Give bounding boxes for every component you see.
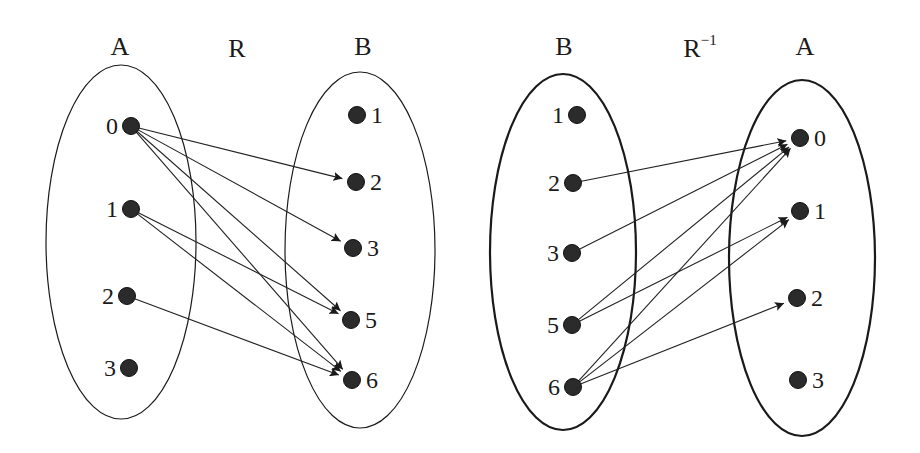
- edge-6-to-2: [579, 303, 784, 385]
- node-label: 2: [548, 170, 560, 196]
- edge-1-to-6: [136, 213, 341, 372]
- node-a-3: 3: [790, 367, 825, 393]
- node-dot: [345, 240, 362, 257]
- edge-0-to-5: [136, 130, 341, 311]
- set-b-title: B: [555, 32, 572, 61]
- node-label: 3: [812, 367, 824, 393]
- node-label: 2: [102, 283, 114, 309]
- node-label: 5: [365, 307, 377, 333]
- relation-r-inverse-base: R: [683, 34, 701, 63]
- node-dot: [792, 130, 809, 147]
- node-b-6: 6: [548, 374, 582, 400]
- node-label: 1: [552, 102, 564, 128]
- node-b-3: 3: [345, 235, 380, 261]
- relation-diagrams: A R B 012312356 B R−1 A 123560123: [0, 0, 920, 453]
- edge-0-to-3: [136, 129, 340, 241]
- node-b-2: 2: [348, 169, 383, 195]
- node-b-1: 1: [552, 102, 586, 128]
- edge-5-to-1: [577, 217, 787, 322]
- node-b-1: 1: [349, 102, 384, 128]
- node-label: 2: [811, 285, 823, 311]
- node-label: 6: [548, 374, 560, 400]
- node-a-0: 0: [792, 125, 827, 151]
- edge-1-to-5: [136, 212, 338, 314]
- node-label: 1: [814, 198, 826, 224]
- node-label: 3: [367, 235, 379, 261]
- edge-2-to-0: [579, 141, 786, 182]
- node-dot: [123, 201, 140, 218]
- node-label: 1: [106, 196, 118, 222]
- node-label: 1: [371, 102, 383, 128]
- edge-0-to-2: [137, 127, 343, 178]
- node-dot: [789, 290, 806, 307]
- node-b-3: 3: [547, 240, 581, 266]
- node-dot: [348, 174, 365, 191]
- node-dot: [123, 118, 140, 135]
- node-b-6: 6: [344, 367, 379, 393]
- node-dot: [792, 203, 809, 220]
- node-a-2: 2: [102, 283, 136, 309]
- relation-r-inverse-title: R−1: [683, 32, 716, 63]
- node-dot: [565, 175, 582, 192]
- node-a-2: 2: [789, 285, 824, 311]
- diagram-relation-r-inverse: B R−1 A 123560123: [490, 32, 875, 436]
- set-a-title: A: [796, 32, 815, 61]
- node-dot: [119, 288, 136, 305]
- node-label: 2: [370, 169, 382, 195]
- node-b-5: 5: [343, 307, 378, 333]
- node-dot: [564, 317, 581, 334]
- node-dot: [349, 107, 366, 124]
- edge-2-to-6: [133, 298, 339, 375]
- edge-0-to-6: [135, 131, 343, 370]
- node-label: 5: [547, 312, 559, 338]
- node-b-5: 5: [547, 312, 581, 338]
- node-dot: [343, 312, 360, 329]
- node-dot: [790, 372, 807, 389]
- node-label: 0: [106, 113, 118, 139]
- node-dot: [565, 379, 582, 396]
- node-label: 0: [814, 125, 826, 151]
- relation-r-inverse-superscript: −1: [701, 32, 717, 48]
- set-b-title: B: [354, 32, 371, 61]
- set-a-title: A: [111, 32, 130, 61]
- node-dot: [121, 360, 138, 377]
- node-dot: [344, 372, 361, 389]
- node-a-1: 1: [106, 196, 140, 222]
- node-dot: [569, 107, 586, 124]
- node-b-2: 2: [548, 170, 582, 196]
- node-a-0: 0: [106, 113, 140, 139]
- node-label: 3: [104, 355, 116, 381]
- node-a-1: 1: [792, 198, 827, 224]
- edge-6-to-1: [578, 220, 789, 384]
- edge-6-to-0: [577, 148, 791, 382]
- node-a-3: 3: [104, 355, 138, 381]
- diagram-relation-r: A R B 012312356: [46, 32, 435, 428]
- node-dot: [564, 245, 581, 262]
- node-label: 6: [366, 367, 378, 393]
- node-label: 3: [547, 240, 559, 266]
- relation-r-title: R: [228, 34, 246, 63]
